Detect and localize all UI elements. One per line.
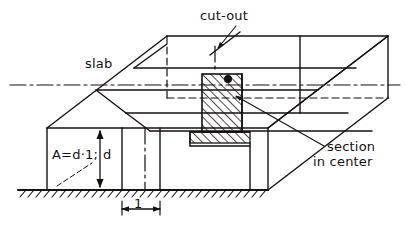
label-cut-out: cut-out [200,8,248,23]
isometric-slab-drawing [0,0,406,228]
slab-rib-right-second [356,36,388,68]
label-slab: slab [85,56,112,71]
hidden-back-edges [167,36,388,98]
label-section-line2: in center [313,154,373,169]
label-depth-symbol: d [103,147,111,162]
right-block-edges [318,90,348,113]
label-section-line1: section [327,139,375,154]
area-leader-line [57,163,92,186]
center-axis-node [224,75,232,83]
label-area-formula: A=d·1; [52,147,98,162]
figure-canvas: slab cut-out section in center A=d·1; d … [0,0,406,228]
label-unit-width: 1 [134,196,142,211]
slab-rib-right [288,36,357,113]
